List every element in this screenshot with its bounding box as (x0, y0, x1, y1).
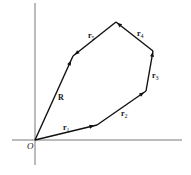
label-r1: r1 (63, 123, 70, 133)
label-r4: r4 (137, 29, 144, 39)
label-r5: r5 (88, 31, 95, 41)
origin-label: O (27, 141, 34, 151)
label-r3: r3 (152, 71, 159, 81)
vector-r4 (116, 22, 153, 51)
vector-chain: r1r2r3r4r5 (35, 22, 159, 140)
label-R: R (58, 93, 64, 102)
vector-polygon-diagram: r1r2r3r4r5 R O (0, 0, 191, 175)
label-r2: r2 (121, 109, 128, 119)
arrowhead-icon (67, 60, 71, 65)
vector-r2 (97, 91, 146, 125)
